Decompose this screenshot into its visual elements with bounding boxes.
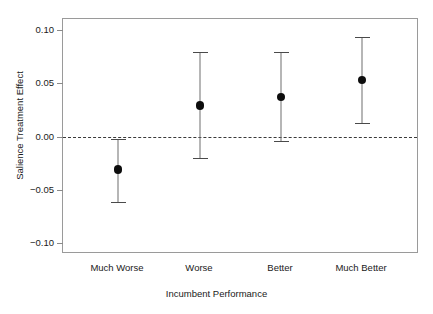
y-tick-mark <box>57 83 63 84</box>
y-tick-label: 0.00 <box>36 132 55 142</box>
chart-figure: 0.100.050.00−0.05−0.10 Much WorseWorseBe… <box>0 0 433 314</box>
y-tick-mark <box>57 190 63 191</box>
y-tick-mark <box>57 30 63 31</box>
x-tick-label: Worse <box>185 262 212 273</box>
x-axis-title: Incumbent Performance <box>0 288 433 299</box>
y-tick-label: 0.10 <box>36 25 55 35</box>
data-point-marker <box>358 76 366 84</box>
y-tick-mark <box>57 243 63 244</box>
x-tick-label: Much Better <box>335 262 386 273</box>
error-bar-cap-lower <box>274 141 289 142</box>
y-tick-label: 0.05 <box>36 78 55 88</box>
error-bar-cap-lower <box>355 123 370 124</box>
data-point-marker <box>114 165 122 173</box>
error-bar-cap-lower <box>193 158 208 159</box>
error-bar-cap-lower <box>111 202 126 203</box>
data-point-marker <box>277 93 285 101</box>
error-bar-cap-upper <box>355 37 370 38</box>
y-tick-label: −0.05 <box>30 185 54 195</box>
y-tick-mark <box>57 137 63 138</box>
error-bar-cap-upper <box>193 52 208 53</box>
error-bar-cap-upper <box>111 139 126 140</box>
data-point-marker <box>196 101 204 109</box>
x-tick-label: Much Worse <box>90 262 143 273</box>
x-tick-label: Better <box>267 262 292 273</box>
plot-area: 0.100.050.00−0.05−0.10 <box>62 18 418 253</box>
y-tick-label: −0.10 <box>30 239 54 249</box>
zero-reference-line <box>63 137 417 138</box>
y-axis-title: Salience Treatment Effect <box>12 8 28 243</box>
error-bar-cap-upper <box>274 52 289 53</box>
